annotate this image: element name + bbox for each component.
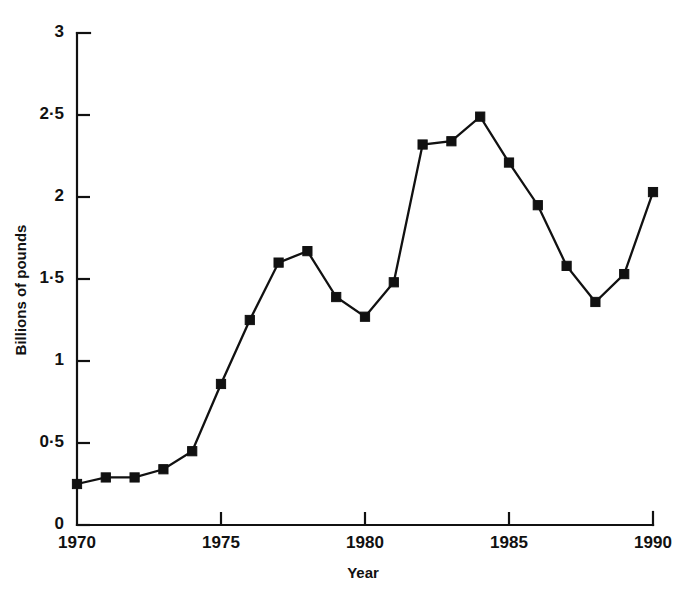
x-tick-label: 1975 xyxy=(202,533,240,552)
data-point-marker xyxy=(562,261,571,270)
data-point-marker xyxy=(389,278,398,287)
data-point-marker xyxy=(533,201,542,210)
x-tick-label: 1985 xyxy=(490,533,528,552)
data-point-marker xyxy=(130,473,139,482)
data-line-series xyxy=(77,117,653,484)
data-point-marker xyxy=(245,315,254,324)
data-point-marker xyxy=(447,137,456,146)
x-axis-title: Year xyxy=(347,564,379,581)
x-axis-ticks xyxy=(221,512,509,525)
data-markers xyxy=(72,112,657,489)
y-tick-label: 1 xyxy=(55,350,64,369)
data-point-marker xyxy=(620,269,629,278)
x-tick-label: 1980 xyxy=(346,533,384,552)
data-point-marker xyxy=(648,187,657,196)
x-tick-label: 1970 xyxy=(58,533,96,552)
data-point-marker xyxy=(188,447,197,456)
data-point-marker xyxy=(591,297,600,306)
y-axis-title: Billions of pounds xyxy=(12,225,29,356)
data-point-marker xyxy=(101,473,110,482)
y-tick-label: 2 xyxy=(55,186,64,205)
line-chart-svg: 00·511·522·53 19701975198019851990 Year … xyxy=(0,0,691,594)
data-point-marker xyxy=(216,379,225,388)
y-axis-ticks xyxy=(77,115,90,525)
chart-figure: 00·511·522·53 19701975198019851990 Year … xyxy=(0,0,691,594)
y-tick-label: 2·5 xyxy=(39,104,64,123)
y-tick-label: 0·5 xyxy=(39,432,64,451)
y-tick-label: 0 xyxy=(55,514,64,533)
data-point-marker xyxy=(274,258,283,267)
x-axis-tick-labels: 19701975198019851990 xyxy=(58,533,672,552)
data-point-marker xyxy=(504,158,513,167)
y-axis-tick-labels: 00·511·522·53 xyxy=(39,22,64,533)
y-tick-label: 3 xyxy=(55,22,64,41)
data-point-marker xyxy=(360,312,369,321)
data-point-marker xyxy=(303,247,312,256)
data-point-marker xyxy=(72,479,81,488)
data-point-marker xyxy=(332,292,341,301)
data-point-marker xyxy=(159,465,168,474)
data-point-marker xyxy=(476,112,485,121)
x-tick-label: 1990 xyxy=(634,533,672,552)
data-point-marker xyxy=(418,140,427,149)
y-tick-label: 1·5 xyxy=(39,268,64,287)
